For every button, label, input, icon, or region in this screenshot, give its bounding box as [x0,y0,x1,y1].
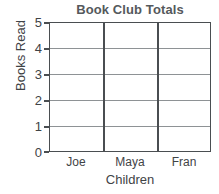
plot-area [49,22,211,152]
column-divider-joe-maya [103,23,105,151]
x-tick-label-fran: Fran [157,155,211,171]
x-axis-tick-labels: Joe Maya Fran [49,155,211,171]
column-divider-maya-fran [157,23,159,151]
y-tick-label-4: 4 [20,42,42,55]
x-tick-label-joe: Joe [49,155,103,171]
y-tick-label-0: 0 [20,146,42,159]
gridline-y-2 [50,100,210,101]
y-tick-label-5: 5 [20,16,42,29]
y-tick-label-2: 2 [20,94,42,107]
gridline-y-4 [50,48,210,49]
gridline-y-1 [50,126,210,127]
bar-chart: Book Club Totals Books Read 5 4 3 2 1 0 … [0,0,219,194]
y-axis-tick-labels: 5 4 3 2 1 0 [18,0,42,194]
chart-title: Book Club Totals [49,2,211,17]
y-tick-label-3: 3 [20,68,42,81]
x-tick-label-maya: Maya [103,155,157,171]
gridline-y-3 [50,74,210,75]
y-tick-label-1: 1 [20,120,42,133]
x-axis-label: Children [49,172,211,187]
